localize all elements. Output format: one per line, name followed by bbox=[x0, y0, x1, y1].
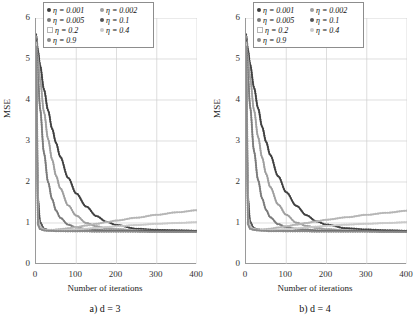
y-tick-4: 4 bbox=[224, 95, 240, 104]
legend-marker-icon bbox=[47, 8, 51, 12]
legend-grid-a: η = 0.001η = 0.002η = 0.005η = 0.1η = 0.… bbox=[47, 5, 151, 45]
y-tick-6: 6 bbox=[224, 13, 240, 22]
x-tick-0: 0 bbox=[21, 270, 49, 279]
y-tick-2: 2 bbox=[14, 177, 30, 186]
y-tick-6: 6 bbox=[14, 13, 30, 22]
y-tick-5: 5 bbox=[14, 54, 30, 63]
legend-label: η = 0.002 bbox=[106, 6, 137, 15]
plot-svg-b bbox=[246, 18, 407, 264]
plot-svg-a bbox=[36, 18, 197, 264]
legend-marker-icon bbox=[257, 8, 261, 12]
x-tick-300: 300 bbox=[142, 270, 170, 279]
legend-item-3: η = 0.1 bbox=[100, 15, 151, 25]
legend-item-1: η = 0.002 bbox=[100, 5, 151, 15]
legend-item-1: η = 0.002 bbox=[310, 5, 361, 15]
legend-marker-icon bbox=[257, 18, 261, 22]
x-tick-100: 100 bbox=[271, 270, 299, 279]
y-tick-3: 3 bbox=[224, 136, 240, 145]
legend-marker-icon bbox=[100, 18, 104, 22]
legend-label: η = 0.005 bbox=[53, 16, 84, 25]
x-axis-label-a: Number of iterations bbox=[0, 283, 210, 293]
legend-label: η = 0.9 bbox=[53, 36, 76, 45]
legend-label: η = 0.001 bbox=[263, 6, 294, 15]
legend-marker-icon bbox=[47, 18, 51, 22]
legend-marker-icon bbox=[100, 28, 104, 32]
x-tick-200: 200 bbox=[312, 270, 340, 279]
legend-item-3: η = 0.1 bbox=[310, 15, 361, 25]
plot-area-a bbox=[35, 18, 196, 264]
legend-marker-icon bbox=[100, 8, 104, 12]
legend-item-5: η = 0.4 bbox=[310, 25, 361, 35]
x-tick-400: 400 bbox=[392, 270, 420, 279]
panel-a-d3: MSE 0123456 0100200300400 Number of iter… bbox=[0, 0, 210, 324]
legend-label: η = 0.1 bbox=[106, 16, 129, 25]
legend-marker-icon bbox=[47, 27, 53, 33]
x-tick-100: 100 bbox=[61, 270, 89, 279]
legend-a: η = 0.001η = 0.002η = 0.005η = 0.1η = 0.… bbox=[43, 2, 154, 48]
legend-marker-icon bbox=[310, 28, 314, 32]
legend-item-2: η = 0.005 bbox=[47, 15, 98, 25]
legend-label: η = 0.005 bbox=[263, 16, 294, 25]
legend-item-6: η = 0.9 bbox=[257, 35, 308, 45]
x-tick-0: 0 bbox=[231, 270, 259, 279]
legend-grid-b: η = 0.001η = 0.002η = 0.005η = 0.1η = 0.… bbox=[257, 5, 361, 45]
x-tick-300: 300 bbox=[352, 270, 380, 279]
legend-item-2: η = 0.005 bbox=[257, 15, 308, 25]
legend-item-0: η = 0.001 bbox=[47, 5, 98, 15]
panel-caption-b: b) d = 4 bbox=[210, 303, 420, 314]
legend-marker-icon bbox=[310, 18, 314, 22]
legend-item-4: η = 0.2 bbox=[257, 25, 308, 35]
legend-label: η = 0.2 bbox=[265, 26, 288, 35]
legend-label: η = 0.1 bbox=[316, 16, 339, 25]
y-tick-1: 1 bbox=[14, 218, 30, 227]
legend-item-0: η = 0.001 bbox=[257, 5, 308, 15]
legend-label: η = 0.001 bbox=[53, 6, 84, 15]
y-tick-3: 3 bbox=[14, 136, 30, 145]
legend-b: η = 0.001η = 0.002η = 0.005η = 0.1η = 0.… bbox=[253, 2, 364, 48]
y-tick-0: 0 bbox=[224, 259, 240, 268]
y-tick-0: 0 bbox=[14, 259, 30, 268]
figure-two-panel-mse: MSE 0123456 0100200300400 Number of iter… bbox=[0, 0, 420, 324]
panel-caption-a: a) d = 3 bbox=[0, 303, 210, 314]
legend-item-4: η = 0.2 bbox=[47, 25, 98, 35]
panel-b-d4: MSE 0123456 0100200300400 Number of iter… bbox=[210, 0, 420, 324]
legend-label: η = 0.002 bbox=[316, 6, 347, 15]
x-tick-200: 200 bbox=[102, 270, 130, 279]
y-tick-2: 2 bbox=[224, 177, 240, 186]
y-axis-label-a: MSE bbox=[2, 99, 12, 118]
legend-marker-icon bbox=[257, 38, 261, 42]
legend-marker-icon bbox=[47, 38, 51, 42]
y-tick-5: 5 bbox=[224, 54, 240, 63]
legend-marker-icon bbox=[257, 27, 263, 33]
legend-label: η = 0.4 bbox=[316, 26, 339, 35]
legend-label: η = 0.2 bbox=[55, 26, 78, 35]
y-tick-1: 1 bbox=[224, 218, 240, 227]
plot-area-b bbox=[245, 18, 406, 264]
x-axis-label-b: Number of iterations bbox=[210, 283, 420, 293]
legend-label: η = 0.4 bbox=[106, 26, 129, 35]
y-tick-4: 4 bbox=[14, 95, 30, 104]
x-tick-400: 400 bbox=[182, 270, 210, 279]
legend-item-6: η = 0.9 bbox=[47, 35, 98, 45]
legend-marker-icon bbox=[310, 8, 314, 12]
legend-label: η = 0.9 bbox=[263, 36, 286, 45]
y-axis-label-b: MSE bbox=[212, 99, 222, 118]
legend-item-5: η = 0.4 bbox=[100, 25, 151, 35]
